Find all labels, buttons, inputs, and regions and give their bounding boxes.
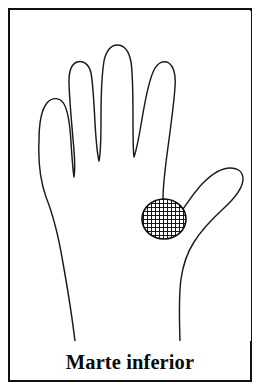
figure-caption: Marte inferior xyxy=(11,343,249,381)
hand-palm-diagram xyxy=(11,11,251,341)
figure-card: Marte inferior xyxy=(8,8,252,382)
figure-inner-frame: Marte inferior xyxy=(10,10,250,380)
